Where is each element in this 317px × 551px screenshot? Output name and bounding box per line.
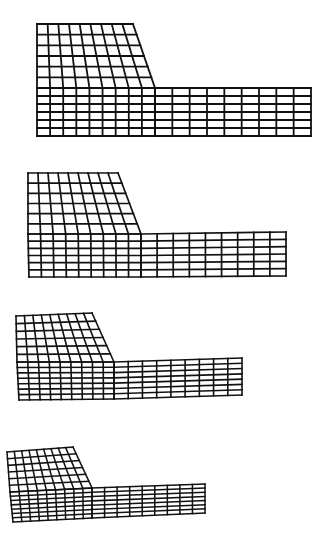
left-lower-hline <box>12 505 92 509</box>
left-lower-hline <box>10 488 92 492</box>
left-upper-hline <box>17 346 107 347</box>
left-lower-hline <box>19 399 114 400</box>
mesh-4 <box>7 447 205 522</box>
left-lower-hline <box>18 383 114 384</box>
left-lower-hline <box>11 497 92 501</box>
right-block-hline <box>92 505 205 510</box>
right-block-hline <box>141 276 286 277</box>
left-lower-hline <box>13 518 92 522</box>
left-lower-hline <box>12 509 92 513</box>
left-lower-hline <box>18 388 114 389</box>
right-block-hline <box>92 513 205 518</box>
right-block-hline <box>114 369 242 373</box>
right-block-hline <box>141 261 286 262</box>
right-block-hline <box>114 363 242 367</box>
right-block-hline <box>141 239 286 241</box>
left-upper-hline <box>16 313 92 316</box>
right-block-hline <box>92 501 205 506</box>
mesh-2 <box>28 173 286 277</box>
right-block-hline <box>114 395 242 399</box>
left-upper-hline <box>16 321 96 324</box>
right-block-hline <box>114 384 242 388</box>
left-lower-hline <box>10 492 92 496</box>
left-upper-hline <box>9 474 86 478</box>
left-lower-hline <box>19 394 114 395</box>
right-block-hline <box>141 254 286 256</box>
mesh-1 <box>37 24 311 136</box>
left-lower-hline <box>11 501 92 505</box>
right-block-hline <box>141 269 286 270</box>
left-upper-hline <box>7 447 73 452</box>
left-upper-hline <box>10 481 89 485</box>
right-block-hline <box>114 379 242 383</box>
right-block-hline <box>141 232 286 234</box>
right-block-hline <box>92 492 205 496</box>
right-block-hline <box>92 509 205 514</box>
right-block-hline <box>141 247 286 249</box>
left-upper-hline <box>17 338 104 340</box>
mesh-figure <box>0 0 317 551</box>
right-block-hline <box>114 390 242 394</box>
left-upper-hline <box>8 454 77 459</box>
right-block-hline <box>92 496 205 500</box>
mesh-3 <box>16 313 242 400</box>
left-upper-hline <box>16 329 99 331</box>
right-block-hline <box>114 358 242 362</box>
left-lower-hline <box>13 514 92 518</box>
right-block-hline <box>92 484 205 488</box>
left-upper-hline <box>9 468 83 473</box>
left-upper-hline <box>17 354 111 355</box>
right-block-hline <box>114 374 242 378</box>
right-block-hline <box>92 488 205 492</box>
left-upper-hline <box>8 461 79 466</box>
